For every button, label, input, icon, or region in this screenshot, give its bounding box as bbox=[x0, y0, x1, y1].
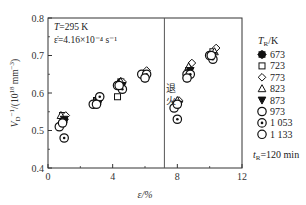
svg-text:773: 773 bbox=[270, 72, 285, 83]
legend-item: 1 133 bbox=[258, 129, 293, 140]
y-tick-label: 0.7 bbox=[32, 50, 45, 61]
x-tick-label: 4 bbox=[110, 171, 115, 182]
legend-item: 823 bbox=[258, 83, 285, 94]
anneal-label: 退 bbox=[166, 83, 176, 94]
legend-item: 973 bbox=[258, 106, 285, 117]
x-axis-label: ε/% bbox=[137, 189, 152, 200]
legend-item: 773 bbox=[258, 72, 285, 83]
svg-text:火: 火 bbox=[166, 95, 176, 106]
series-823 bbox=[57, 48, 218, 119]
svg-text:823: 823 bbox=[270, 83, 285, 94]
x-tick-label: 12 bbox=[237, 171, 247, 182]
y-axis-label: VD−1/(1018 mm−3) bbox=[8, 59, 22, 127]
svg-text:VD−1/(1018 mm−3): VD−1/(1018 mm−3) bbox=[8, 59, 22, 127]
legend-item: 723 bbox=[259, 60, 285, 71]
legend-title: TR/K bbox=[258, 35, 279, 48]
legend-item: 673 bbox=[258, 49, 286, 60]
condition-strain-rate: ε̇=4.16×10⁻⁴ s⁻¹ bbox=[54, 35, 117, 45]
series-773 bbox=[62, 44, 220, 119]
y-tick-label: 0.8 bbox=[32, 13, 45, 24]
legend-item: 1 053 bbox=[258, 117, 293, 128]
legend-item: 873 bbox=[258, 95, 285, 106]
anneal-time-label: tR=120 min bbox=[253, 149, 299, 162]
y-tick-label: 0.5 bbox=[32, 125, 45, 136]
svg-text:723: 723 bbox=[270, 60, 285, 71]
legend: TR/K6737237738238739731 0531 133tR=120 m… bbox=[253, 35, 299, 162]
svg-text:873: 873 bbox=[270, 95, 285, 106]
y-tick-label: 0.6 bbox=[32, 88, 45, 99]
svg-text:ε/%: ε/% bbox=[137, 189, 152, 200]
x-tick-label: 0 bbox=[46, 171, 51, 182]
svg-text:673: 673 bbox=[270, 49, 285, 60]
data-points bbox=[55, 44, 220, 142]
annotations: 退火T=295 Kε̇=4.16×10⁻⁴ s⁻¹ bbox=[54, 18, 176, 168]
scatter-chart: 0.40.50.60.70.804812 VD−1/(1018 mm−3) ε/… bbox=[0, 0, 306, 205]
y-tick-label: 0.4 bbox=[32, 163, 45, 174]
x-tick-label: 8 bbox=[175, 171, 180, 182]
svg-text:973: 973 bbox=[270, 106, 285, 117]
svg-text:1 133: 1 133 bbox=[270, 129, 293, 140]
condition-temperature: T=295 K bbox=[54, 22, 88, 32]
svg-text:1 053: 1 053 bbox=[270, 117, 293, 128]
